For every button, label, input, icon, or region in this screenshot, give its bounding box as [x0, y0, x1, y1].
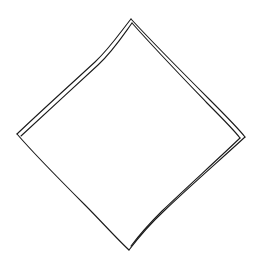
edge-bottom-right-outer — [129, 137, 245, 250]
diagram-canvas — [0, 0, 265, 264]
edge-top-right-outer — [131, 19, 245, 137]
edge-top-right-inner — [132, 23, 240, 138]
edge-top-left-outer — [17, 19, 131, 134]
diamond-shape — [0, 0, 265, 264]
edge-bottom-right-inner — [131, 138, 240, 246]
edge-bottom-left — [17, 134, 129, 250]
